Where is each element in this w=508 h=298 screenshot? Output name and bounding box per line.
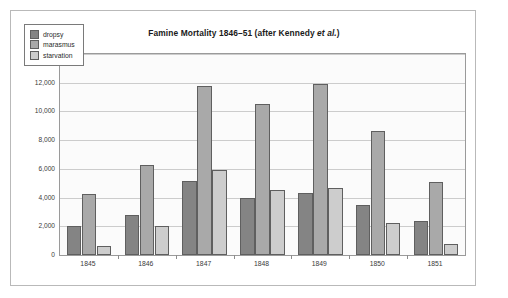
bar-dropsy-1846 [125,215,140,255]
legend-label: starvation [43,52,72,59]
x-tick-mark [291,255,292,259]
bar-marasmus-1851 [429,182,444,255]
bar-marasmus-1847 [197,86,212,255]
bar-dropsy-1847 [182,181,197,255]
x-tick-mark [349,255,350,259]
chart-title-tail: ) [337,28,340,38]
bar-starvation-1851 [444,244,459,255]
x-tick-label: 1848 [254,260,269,267]
legend-item-marasmus: marasmus [30,40,75,49]
bar-group [234,54,292,255]
legend-swatch-icon [30,51,39,60]
x-tick-label: 1845 [80,260,95,267]
x-tick-label: 1849 [312,260,327,267]
bar-marasmus-1848 [255,104,270,255]
legend-item-dropsy: dropsy [30,30,75,39]
bar-starvation-1849 [328,188,343,255]
y-tick-label: 4,000 [11,193,55,200]
bar-group [291,54,349,255]
bar-marasmus-1845 [82,194,97,255]
legend-swatch-icon [30,30,39,39]
y-tick-label: 2,000 [11,222,55,229]
x-tick-mark [118,255,119,259]
x-tick-mark [176,255,177,259]
bar-group [118,54,176,255]
bar-marasmus-1846 [140,165,155,255]
plot-area [59,53,466,256]
bar-starvation-1847 [212,170,227,255]
x-tick-label: 1850 [370,260,385,267]
x-tick-label: 1846 [138,260,153,267]
y-tick-label: 6,000 [11,164,55,171]
bar-dropsy-1848 [240,198,255,255]
x-tick-mark [234,255,235,259]
legend-label: marasmus [43,41,75,48]
bar-marasmus-1850 [371,131,386,255]
bar-group [60,54,118,255]
bar-dropsy-1851 [414,221,429,255]
x-tick-mark [407,255,408,259]
bar-starvation-1848 [270,190,285,255]
bars-layer [60,54,465,255]
bar-group [176,54,234,255]
bar-marasmus-1849 [313,84,328,255]
legend-label: dropsy [43,31,63,38]
chart-legend: dropsymarasmusstarvation [24,24,84,66]
y-tick-label: 12,000 [11,78,55,85]
bar-dropsy-1850 [356,205,371,255]
legend-swatch-icon [30,40,39,49]
bar-group [407,54,465,255]
bar-group [349,54,407,255]
legend-item-starvation: starvation [30,51,75,60]
bar-starvation-1846 [155,226,170,255]
x-axis-tick-labels: 1845184618471848184918501851 [59,260,464,274]
y-axis-tick-labels: 14,00012,00010,0008,0006,0004,0002,0000 [11,53,55,254]
chart-title-italic: et al. [317,28,337,38]
x-tick-label: 1851 [428,260,443,267]
gridline [60,255,465,256]
y-tick-label: 0 [11,251,55,258]
bar-dropsy-1845 [67,226,82,255]
chart-title-main: Famine Mortality 1846–51 (after Kennedy [148,28,317,38]
y-tick-label: 8,000 [11,136,55,143]
figure-frame: Famine Mortality 1846–51 (after Kennedy … [10,10,476,286]
bar-dropsy-1849 [298,193,313,255]
bar-starvation-1850 [386,223,401,255]
bar-starvation-1845 [97,246,112,255]
y-tick-label: 10,000 [11,107,55,114]
x-tick-label: 1847 [196,260,211,267]
